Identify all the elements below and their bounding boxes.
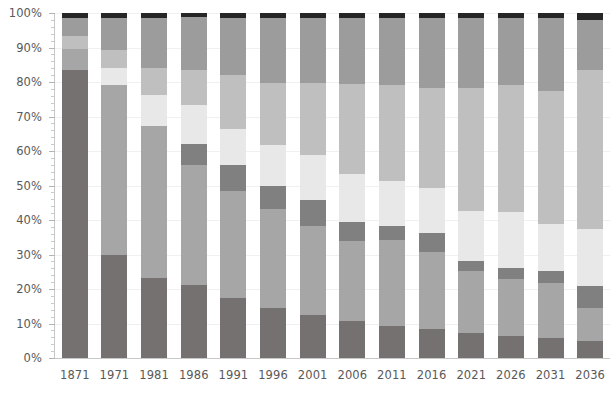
bar-segment[interactable] [458,271,484,333]
bar-group[interactable] [101,13,127,358]
bar-segment[interactable] [260,83,286,145]
bar-segment[interactable] [458,333,484,358]
bar-segment[interactable] [220,165,246,191]
bar-group[interactable] [498,13,524,358]
bar-segment[interactable] [141,278,167,358]
bar-segment[interactable] [260,209,286,308]
bar-segment[interactable] [220,298,246,358]
bar-segment[interactable] [300,155,326,200]
bar-segment[interactable] [419,13,445,18]
bar-segment[interactable] [498,13,524,18]
bar-segment[interactable] [220,191,246,297]
bar-segment[interactable] [181,13,207,17]
bar-segment[interactable] [300,18,326,83]
bar-segment[interactable] [577,13,603,20]
bar-segment[interactable] [379,85,405,182]
bar-segment[interactable] [62,13,88,18]
bar-group[interactable] [538,13,564,358]
bar-segment[interactable] [379,226,405,240]
bar-group[interactable] [419,13,445,358]
bar-segment[interactable] [379,181,405,226]
bar-segment[interactable] [181,285,207,358]
bar-segment[interactable] [458,211,484,261]
bar-segment[interactable] [458,13,484,18]
bar-group[interactable] [181,13,207,358]
bar-segment[interactable] [458,261,484,271]
bar-segment[interactable] [260,13,286,18]
bar-segment[interactable] [62,36,88,49]
bar-segment[interactable] [141,68,167,95]
bar-segment[interactable] [101,68,127,85]
bar-segment[interactable] [577,308,603,341]
bar-segment[interactable] [577,229,603,286]
bar-segment[interactable] [101,13,127,18]
bar-segment[interactable] [419,188,445,233]
bar-segment[interactable] [260,145,286,186]
bar-segment[interactable] [339,174,365,222]
bar-group[interactable] [300,13,326,358]
bar-segment[interactable] [101,18,127,49]
bar-segment[interactable] [538,338,564,358]
bar-segment[interactable] [141,18,167,68]
bar-segment[interactable] [181,165,207,285]
bar-segment[interactable] [419,88,445,188]
bar-segment[interactable] [538,283,564,338]
bar-segment[interactable] [62,70,88,358]
bar-segment[interactable] [260,308,286,358]
bar-segment[interactable] [101,255,127,358]
bar-segment[interactable] [181,17,207,69]
bar-segment[interactable] [260,186,286,208]
bar-segment[interactable] [339,321,365,358]
bar-segment[interactable] [379,18,405,85]
bar-segment[interactable] [300,200,326,226]
bar-segment[interactable] [498,268,524,279]
bar-segment[interactable] [538,271,564,283]
bar-segment[interactable] [181,144,207,165]
bar-segment[interactable] [577,341,603,358]
bar-segment[interactable] [538,91,564,224]
bar-segment[interactable] [498,85,524,213]
bar-segment[interactable] [141,13,167,18]
bar-group[interactable] [339,13,365,358]
bar-segment[interactable] [498,212,524,267]
bar-segment[interactable] [62,49,88,70]
bar-segment[interactable] [300,226,326,315]
bar-segment[interactable] [379,326,405,358]
bar-segment[interactable] [101,50,127,68]
bar-segment[interactable] [339,241,365,320]
bar-segment[interactable] [181,105,207,145]
bar-group[interactable] [260,13,286,358]
bar-segment[interactable] [141,95,167,126]
bar-segment[interactable] [300,13,326,18]
bar-segment[interactable] [220,75,246,130]
bar-segment[interactable] [577,70,603,229]
bar-group[interactable] [577,13,603,358]
bar-segment[interactable] [220,18,246,75]
bar-segment[interactable] [141,126,167,278]
bar-segment[interactable] [300,83,326,155]
bar-segment[interactable] [62,18,88,36]
bar-group[interactable] [379,13,405,358]
bar-segment[interactable] [181,70,207,105]
bar-segment[interactable] [339,13,365,18]
bar-segment[interactable] [339,84,365,174]
bar-segment[interactable] [458,88,484,210]
bar-segment[interactable] [538,224,564,271]
bar-group[interactable] [458,13,484,358]
bar-segment[interactable] [458,18,484,88]
bar-group[interactable] [220,13,246,358]
bar-segment[interactable] [220,13,246,18]
bar-group[interactable] [141,13,167,358]
bar-segment[interactable] [260,18,286,83]
bar-segment[interactable] [538,13,564,18]
bar-segment[interactable] [300,315,326,358]
bar-segment[interactable] [538,18,564,91]
bar-segment[interactable] [498,336,524,358]
bar-segment[interactable] [419,329,445,358]
bar-segment[interactable] [379,240,405,326]
bar-segment[interactable] [379,13,405,18]
bar-segment[interactable] [339,18,365,84]
bar-segment[interactable] [498,279,524,337]
bar-segment[interactable] [419,233,445,252]
bar-segment[interactable] [419,18,445,88]
